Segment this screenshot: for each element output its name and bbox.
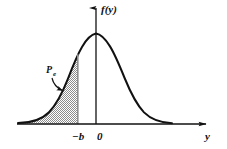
density-curve	[18, 34, 172, 124]
y-axis-label: f(y)	[101, 3, 117, 16]
probability-density-figure: f(y) y −b 0 P e	[0, 0, 227, 149]
tick-label-minus-b: −b	[72, 130, 85, 142]
tick-label-origin: 0	[97, 130, 103, 142]
region-label-pe-subscript: e	[53, 70, 56, 78]
region-label-pe-base: P	[46, 64, 53, 75]
x-axis-label: y	[203, 130, 210, 142]
figure-canvas: f(y) y −b 0 P e	[0, 0, 227, 149]
region-leader-line	[52, 78, 63, 91]
